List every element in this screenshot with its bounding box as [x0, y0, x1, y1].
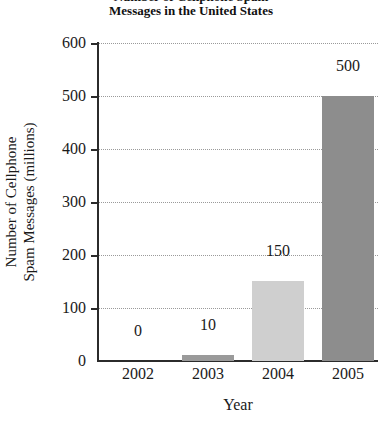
y-axis-line [97, 42, 99, 362]
x-tick-label-2003: 2003 [182, 365, 234, 383]
bar-2004[interactable] [252, 281, 304, 361]
y-tick-label: 200 [62, 247, 86, 263]
bar-value-2004: 150 [252, 243, 304, 259]
y-axis-label-container: Number of Cellphone Spam Messages (milli… [0, 43, 40, 361]
x-tick-label-2002: 2002 [112, 365, 164, 383]
y-tick-label: 300 [62, 194, 86, 210]
y-tick-label: 500 [62, 88, 86, 104]
x-tick-label-2004: 2004 [252, 365, 304, 383]
bar-chart-figure: Number of Cellphone Spam Messages in the… [0, 0, 382, 422]
x-axis-label: Year [98, 396, 378, 414]
y-tick-label: 600 [62, 35, 86, 51]
bar-2005[interactable] [322, 96, 374, 361]
y-tick-label: 100 [62, 300, 86, 316]
bar-value-2003: 10 [182, 317, 234, 333]
y-axis-tick-labels: 600 500 400 300 200 100 0 [40, 0, 92, 422]
y-axis-label-line-1: Number of Cellphone [2, 122, 20, 281]
y-axis-label: Number of Cellphone Spam Messages (milli… [2, 122, 38, 281]
y-axis-label-line-2: Spam Messages (millions) [20, 122, 38, 281]
y-tick-label: 400 [62, 141, 86, 157]
bar-value-2005: 500 [322, 58, 374, 74]
gridline-600 [98, 43, 378, 44]
y-tick-label: 0 [78, 353, 86, 369]
x-axis-tick-labels: 2002 2003 2004 2005 [98, 365, 378, 387]
x-tick-label-2005: 2005 [322, 365, 374, 383]
plot-area: 0 10 150 500 [98, 43, 378, 361]
bar-value-2002: 0 [112, 323, 164, 339]
bar-2003[interactable] [182, 355, 234, 361]
